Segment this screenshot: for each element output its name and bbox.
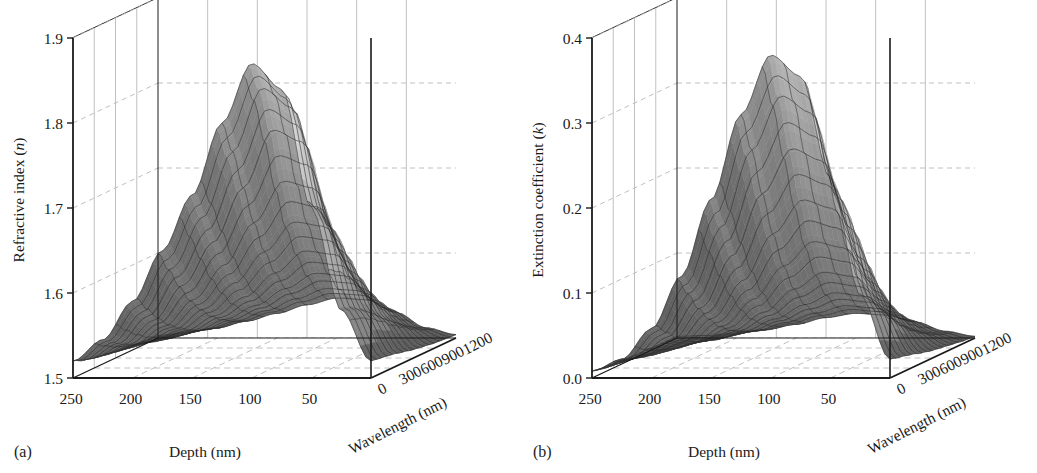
- z-tick-label: 1.5: [44, 370, 64, 387]
- x-tick-label: 100: [238, 390, 262, 407]
- surface-plot-b: 0.40.30.20.10.02502001501005003006009001…: [519, 0, 1037, 473]
- z-tick-label: 0.0: [563, 370, 583, 387]
- panel-letter: (a): [14, 443, 32, 461]
- z-tick-label: 0.2: [563, 200, 582, 217]
- z-tick-label: 0.1: [563, 285, 582, 302]
- panel-letter: (b): [533, 443, 552, 461]
- x-tick-label: 250: [59, 390, 83, 407]
- z-tick-label: 0.3: [563, 115, 583, 132]
- x-axis-title: Depth (nm): [169, 443, 241, 461]
- z-tick-label: 1.9: [44, 30, 64, 47]
- y-tick-label: 0: [894, 379, 909, 398]
- x-tick-label: 150: [179, 390, 203, 407]
- panel-a: 1.91.81.71.61.52502001501005003006009001…: [0, 0, 518, 473]
- z-axis-title: Refractive index (n): [10, 138, 28, 263]
- z-tick-label: 0.4: [563, 30, 583, 47]
- y-tick-label: 0: [375, 379, 390, 398]
- surface-plot-a: 1.91.81.71.61.52502001501005003006009001…: [0, 0, 518, 473]
- y-axis-title: Wavelength (nm): [865, 393, 969, 458]
- x-tick-label: 150: [698, 390, 722, 407]
- x-axis-title: Depth (nm): [688, 443, 760, 461]
- z-tick-label: 1.8: [44, 115, 64, 132]
- figure-container: 1.91.81.71.61.52502001501005003006009001…: [0, 0, 1037, 473]
- x-tick-label: 250: [578, 390, 602, 407]
- y-tick-label: 1200: [460, 328, 496, 357]
- panel-b: 0.40.30.20.10.02502001501005003006009001…: [519, 0, 1037, 473]
- x-tick-label: 100: [757, 390, 781, 407]
- z-tick-label: 1.6: [44, 285, 64, 302]
- y-axis-title: Wavelength (nm): [346, 393, 450, 458]
- z-tick-label: 1.7: [44, 200, 64, 217]
- x-tick-label: 200: [119, 390, 143, 407]
- z-axis-title: Extinction coefficient (k): [529, 122, 547, 278]
- x-tick-label: 50: [302, 390, 318, 407]
- x-tick-label: 200: [638, 390, 662, 407]
- x-tick-label: 50: [821, 390, 837, 407]
- y-tick-label: 1200: [979, 328, 1015, 357]
